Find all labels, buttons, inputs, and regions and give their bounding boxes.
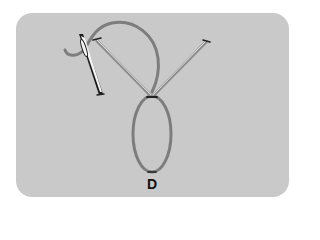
right-straight-stitch [153, 41, 206, 96]
step-label: D [143, 176, 161, 192]
thread-loop-oval [133, 96, 171, 172]
left-straight-stitch [97, 40, 151, 96]
stitch-anchor-marks [93, 38, 210, 172]
